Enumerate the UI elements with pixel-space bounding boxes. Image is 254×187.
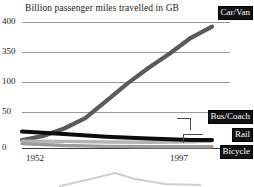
series-line-car-van xyxy=(22,27,212,140)
leader-line-rail-vertical xyxy=(183,134,184,143)
legend-label-rail[interactable]: Rail xyxy=(232,128,253,142)
leader-line-rail-horizontal xyxy=(183,134,203,135)
leader-line-bus-vertical xyxy=(190,118,191,130)
legend-label-bus-coach[interactable]: Bus/Coach xyxy=(208,110,254,124)
legend-label-car-van[interactable]: Car/Van xyxy=(218,6,254,20)
series-line-bicycle xyxy=(22,144,212,147)
leader-line-bus-horizontal xyxy=(177,118,191,119)
legend-label-bicycle[interactable]: Bicycle xyxy=(220,145,254,159)
artifact-peak-line xyxy=(60,173,200,186)
next-figure-artifact xyxy=(0,168,254,187)
series-layer xyxy=(0,0,254,187)
chart-figure: Billion passenger miles travelled in GB … xyxy=(0,0,254,187)
